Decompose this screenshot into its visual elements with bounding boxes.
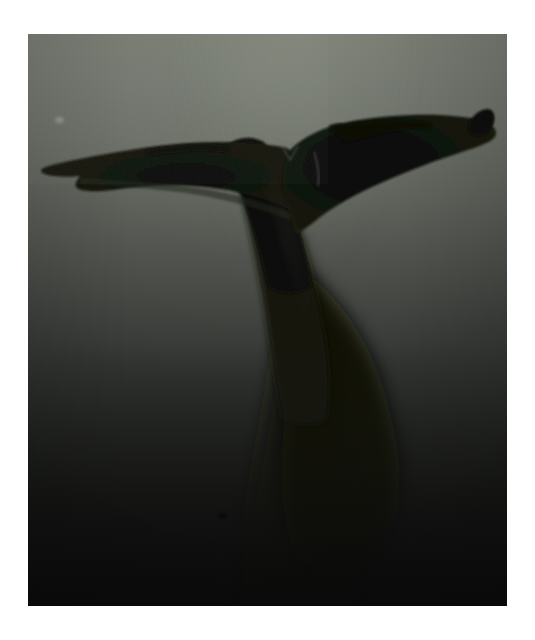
- humpback-whale-silhouette: [28, 34, 507, 606]
- photograph: Dark silhouette of a humpback whale's ta…: [28, 34, 507, 606]
- page-root: Dark silhouette of a humpback whale's ta…: [0, 0, 535, 640]
